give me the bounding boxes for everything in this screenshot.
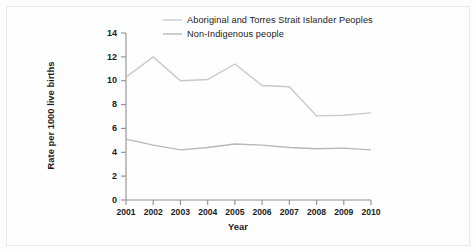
y-tick-label-6: 6 [101,123,117,133]
y-tick-label-12: 12 [101,52,117,62]
series-line-aboriginal [126,57,371,116]
x-tick-marks [126,200,371,205]
series-line-non-indigenous [126,139,371,150]
x-tick-label-2004: 2004 [193,207,223,217]
y-tick-label-8: 8 [101,99,117,109]
x-tick-label-2002: 2002 [138,207,168,217]
y-tick-label-2: 2 [101,171,117,181]
x-tick-label-2010: 2010 [356,207,386,217]
x-tick-label-2009: 2009 [329,207,359,217]
x-axis-title: Year [0,221,476,232]
legend-label-non-indigenous: Non-Indigenous people [187,29,284,39]
y-axis-title: Rate per 1000 live births [45,51,56,181]
x-tick-label-2007: 2007 [274,207,304,217]
y-tick-label-14: 14 [101,28,117,38]
y-tick-marks [121,33,126,200]
chart-figure: Aboriginal and Torres Strait Islander Pe… [0,0,476,252]
x-tick-label-2008: 2008 [302,207,332,217]
y-tick-label-10: 10 [101,75,117,85]
y-tick-label-0: 0 [101,195,117,205]
legend-label-aboriginal: Aboriginal and Torres Strait Islander Pe… [187,15,373,25]
x-tick-label-2006: 2006 [247,207,277,217]
x-tick-label-2005: 2005 [220,207,250,217]
y-tick-label-4: 4 [101,147,117,157]
x-tick-label-2003: 2003 [165,207,195,217]
x-tick-label-2001: 2001 [111,207,141,217]
